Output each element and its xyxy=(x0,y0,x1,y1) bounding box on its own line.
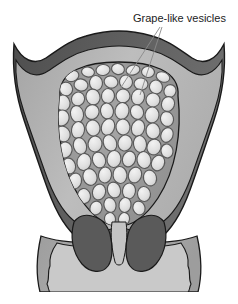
medical-illustration: Grape-like vesicles xyxy=(0,0,238,304)
label-grape-like-vesicles: Grape-like vesicles xyxy=(133,12,226,24)
bottom-crop-band xyxy=(0,292,238,304)
